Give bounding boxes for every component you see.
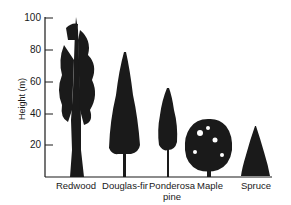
y-ticks [45,18,53,145]
category-label-douglas-fir: Douglas-fir [100,180,150,191]
tree-height-chart: 100 80 60 40 20 Height (m) Redwood Dougl… [0,0,291,205]
category-label-redwood: Redwood [52,180,100,191]
y-tick-label-80: 80 [15,45,41,55]
y-tick-label-20: 20 [15,140,41,150]
chart-plot [0,0,291,205]
category-label-spruce: Spruce [236,180,276,191]
spruce-tree-icon [241,126,270,176]
douglas-fir-tree-icon [109,52,140,177]
y-tick-label-100: 100 [15,13,41,23]
redwood-tree-icon [59,17,95,177]
y-axis-label: Height (m) [17,69,27,129]
category-label-ponderosa-pine: Ponderosa pine [148,180,196,202]
category-label-ponderosa-line1: Ponderosa [148,180,196,191]
category-label-maple: Maple [194,180,226,191]
ponderosa-pine-tree-icon [158,88,177,177]
category-label-ponderosa-line2: pine [148,191,196,202]
